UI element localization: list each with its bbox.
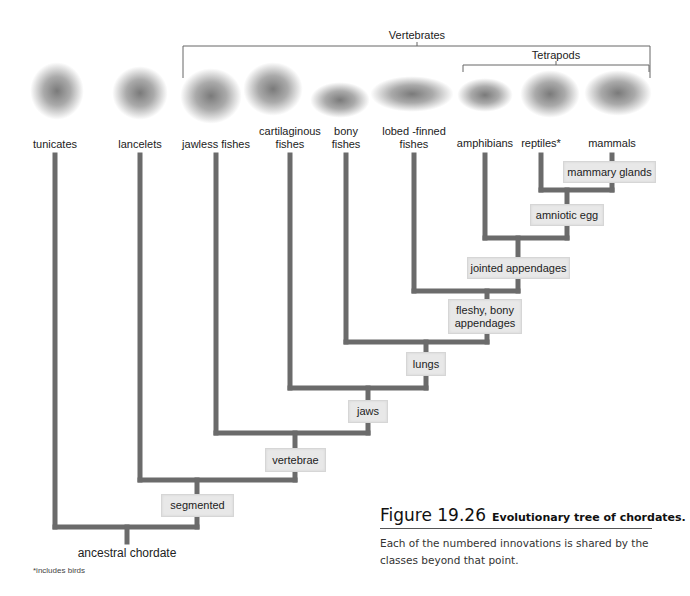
taxon-label-lobed-finned-fishes: lobed -finned fishes <box>382 125 446 151</box>
tunicate-illustration <box>30 62 84 120</box>
taxon-label-mammals: mammals <box>588 137 636 150</box>
trait-box-vertebrae: vertebrae <box>265 448 326 472</box>
trait-box-jaws: jaws <box>348 400 388 423</box>
taxon-label-lancelets: lancelets <box>118 138 161 151</box>
trait-box-segmented: segmented <box>161 494 234 517</box>
shark-illustration <box>243 62 303 116</box>
figure-number: Figure 19.26 <box>380 505 486 525</box>
taxon-label-reptiles: reptiles* <box>521 137 561 150</box>
taxon-label-tunicates: tunicates <box>33 138 77 151</box>
trait-box-jointed-appendages: jointed appendages <box>467 257 570 279</box>
lancelet-illustration <box>112 66 168 120</box>
root-label-ancestral-chordate: ancestral chordate <box>78 546 177 560</box>
taxon-label-bony-fishes: bony fishes <box>332 125 361 151</box>
taxon-label-line: fishes <box>332 138 361 151</box>
figure-caption-body: Each of the numbered innovations is shar… <box>380 535 670 569</box>
trait-box-mammary-glands: mammary glands <box>563 161 656 183</box>
taxon-label-amphibians: amphibians <box>457 137 513 150</box>
horse-illustration <box>584 70 652 116</box>
figure-title: Evolutionary tree of chordates. <box>492 511 686 524</box>
trait-box-lungs: lungs <box>406 352 446 376</box>
frog-illustration <box>457 78 513 112</box>
lobe-finned-fish-illustration <box>370 76 454 112</box>
taxon-label-line: fishes <box>382 138 446 151</box>
footnote: *includes birds <box>33 566 85 575</box>
lamprey-illustration <box>180 68 242 124</box>
trait-box-fleshy-bony-appendages: fleshy, bony appendages <box>448 299 522 334</box>
taxon-label-line: bony <box>332 125 361 138</box>
clade-label-tetrapods: Tetrapods <box>532 49 580 61</box>
taxon-label-line: lobed -finned <box>382 125 446 138</box>
taxon-label-cartilaginous-fishes: cartilaginous fishes <box>259 125 321 151</box>
caption-divider <box>380 528 652 529</box>
taxon-label-jawless-fishes: jawless fishes <box>182 138 250 151</box>
trait-box-amniotic-egg: amniotic egg <box>530 204 604 226</box>
figure-caption-title: Figure 19.26Evolutionary tree of chordat… <box>380 505 686 525</box>
bony-fish-illustration <box>310 82 370 118</box>
clade-label-vertebrates: Vertebrates <box>389 29 445 41</box>
taxon-label-line: fishes <box>259 138 321 151</box>
taxon-label-line: cartilaginous <box>259 125 321 138</box>
lizard-illustration <box>520 70 580 118</box>
